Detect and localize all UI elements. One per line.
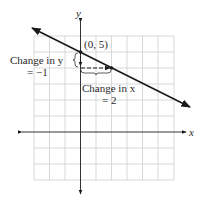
coordinate-graph: x y (0, 5) Change in y = −1 Change in x … xyxy=(0,0,200,209)
change-x-label-line1: Change in x xyxy=(82,82,136,94)
change-x-label-line2: = 2 xyxy=(102,94,116,106)
x-axis-label: x xyxy=(188,126,194,138)
point-2-4 xyxy=(110,66,114,70)
change-y-label-line1: Change in y xyxy=(10,54,64,66)
change-y-label-line2: = −1 xyxy=(27,66,48,78)
point-label: (0, 5) xyxy=(84,38,108,51)
brace-y xyxy=(73,53,78,67)
y-axis-label: y xyxy=(75,7,81,19)
